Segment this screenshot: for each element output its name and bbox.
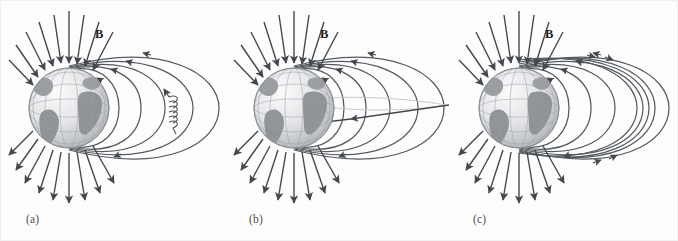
pole-arrow <box>527 15 534 64</box>
pole-arrow <box>54 15 61 63</box>
earth-globe-a <box>29 68 109 148</box>
pole-arrow <box>278 152 286 200</box>
loop-arrow <box>143 53 151 55</box>
solenoid-coil <box>164 89 177 134</box>
pole-arrow <box>25 146 45 183</box>
loop-arrow <box>593 53 601 55</box>
pole-arrow <box>527 152 535 200</box>
pole-arrow <box>39 22 53 66</box>
pole-arrow <box>489 22 503 66</box>
coil-turn <box>169 121 177 128</box>
coil-lead-top <box>164 89 169 97</box>
earth-globe-b <box>254 68 334 148</box>
loop-arrow-reversed <box>593 160 601 163</box>
panel-caption-c: (c) <box>473 213 486 225</box>
loop-arrow <box>368 53 376 55</box>
pole-arrow <box>264 22 278 66</box>
earth-globe-c <box>479 68 559 148</box>
figure-container: B (a) <box>0 0 678 241</box>
pole-arrow <box>53 152 61 200</box>
panel-a: B (a) <box>1 1 227 241</box>
panel-a-graphic <box>1 1 227 241</box>
pole-arrow <box>264 150 278 193</box>
pole-arrow <box>77 152 85 200</box>
pole-arrow <box>39 150 53 193</box>
field-label-b-b: B <box>320 27 328 42</box>
pole-arrow <box>250 146 270 183</box>
pole-arrow <box>489 150 503 193</box>
coil-lead-bottom <box>173 128 176 134</box>
panel-caption-b: (b) <box>249 213 263 225</box>
pole-arrow <box>475 146 495 183</box>
pole-arrow <box>279 15 286 63</box>
pole-arrow <box>302 152 310 200</box>
pole-arrow <box>77 15 84 64</box>
pole-arrow <box>503 152 511 200</box>
pole-arrow <box>504 15 511 63</box>
panel-b: B (b) <box>226 1 452 241</box>
panel-b-graphic <box>226 1 452 241</box>
panel-caption-a: (a) <box>26 213 39 225</box>
panel-c: B (c) <box>451 1 677 241</box>
pole-arrow <box>302 15 309 64</box>
field-label-b-a: B <box>95 27 103 42</box>
panel-c-graphic <box>451 1 678 241</box>
field-label-b-c: B <box>545 27 553 42</box>
